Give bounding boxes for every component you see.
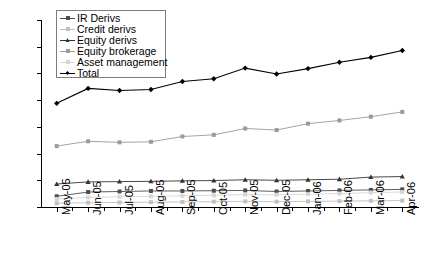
legend-marker-icon	[60, 68, 75, 79]
data-point	[275, 193, 279, 197]
data-point	[212, 200, 216, 204]
data-point	[275, 128, 279, 132]
data-point	[180, 200, 184, 204]
data-point	[117, 88, 122, 93]
series-equity-brokerage	[55, 110, 405, 148]
data-point	[243, 188, 247, 192]
data-point	[306, 199, 310, 203]
data-point	[149, 189, 153, 193]
data-point	[243, 65, 248, 70]
x-axis-minor-tick	[355, 208, 356, 211]
data-point	[400, 110, 404, 114]
legend-item-label: Total	[75, 68, 99, 79]
x-axis-tick-label: Jul-05	[124, 185, 135, 215]
legend-item: Asset management	[60, 57, 162, 68]
x-axis-tick	[277, 208, 278, 212]
chart-legend: IR DerivsCredit derivsEquity derivsEquit…	[56, 10, 166, 78]
legend-marker-icon	[60, 57, 75, 68]
data-point	[86, 190, 90, 194]
x-axis-minor-tick	[72, 208, 73, 211]
data-point	[337, 118, 341, 122]
data-point	[149, 194, 153, 198]
data-point	[211, 76, 216, 81]
data-point	[337, 60, 342, 65]
x-axis-minor-tick	[324, 208, 325, 211]
data-point	[243, 126, 247, 130]
x-axis-minor-tick	[387, 208, 388, 211]
data-point	[212, 133, 216, 137]
line-chart: 35000300002500020000150001000050000 May-…	[0, 0, 431, 269]
x-axis-tick-label: May-05	[61, 178, 72, 215]
data-point	[180, 194, 184, 198]
x-axis-tick	[245, 208, 246, 212]
data-point	[148, 87, 153, 92]
data-point	[275, 200, 279, 204]
x-axis-tick-label: Jun-05	[92, 181, 103, 215]
data-point	[86, 139, 90, 143]
x-axis-tick	[308, 208, 309, 212]
data-point	[369, 191, 373, 195]
data-point	[118, 190, 122, 194]
data-point	[306, 122, 310, 126]
data-point	[180, 189, 184, 193]
data-point	[243, 199, 247, 203]
legend-item: Total	[60, 68, 162, 79]
data-point	[243, 193, 247, 197]
data-point	[305, 66, 310, 71]
x-axis-minor-tick	[230, 208, 231, 211]
x-axis-tick	[402, 208, 403, 212]
x-axis-tick-label: Jan-06	[312, 181, 323, 215]
legend-marker-icon	[60, 46, 75, 57]
data-point	[55, 201, 59, 205]
x-axis-tick-label: Dec-05	[281, 180, 292, 215]
x-axis-tick	[88, 208, 89, 212]
data-point	[274, 71, 279, 76]
x-axis-tick-label: Oct-05	[218, 182, 229, 215]
x-axis-minor-tick	[261, 208, 262, 211]
y-axis-labels: 35000300002500020000150001000050000	[0, 0, 37, 269]
data-point	[180, 134, 184, 138]
data-point	[118, 195, 122, 199]
data-point	[400, 190, 404, 194]
x-axis-tick-label: Aug-05	[155, 180, 166, 215]
x-axis-minor-tick	[104, 208, 105, 211]
x-axis-tick	[371, 208, 372, 212]
data-point	[180, 79, 185, 84]
data-point	[149, 140, 153, 144]
x-axis-tick	[151, 208, 152, 212]
data-point	[400, 199, 404, 203]
legend-marker-icon	[60, 24, 75, 35]
x-axis-minor-tick	[198, 208, 199, 211]
x-axis-minor-tick	[292, 208, 293, 211]
x-axis-tick-label: Sep-05	[186, 180, 197, 215]
data-point	[212, 193, 216, 197]
x-axis-tick-label: Apr-06	[406, 182, 417, 215]
data-point	[149, 200, 153, 204]
series-line	[57, 112, 403, 146]
data-point	[85, 86, 90, 91]
x-axis-minor-tick	[135, 208, 136, 211]
x-axis-tick	[57, 208, 58, 212]
data-point	[369, 199, 373, 203]
data-point	[86, 195, 90, 199]
data-point	[54, 101, 59, 106]
data-point	[400, 48, 405, 53]
legend-marker-icon	[60, 13, 75, 24]
legend-marker-icon	[60, 35, 75, 46]
data-point	[55, 144, 59, 148]
data-point	[369, 115, 373, 119]
data-point	[337, 192, 341, 196]
data-point	[86, 201, 90, 205]
data-point	[55, 197, 59, 201]
data-point	[118, 200, 122, 204]
x-axis-tick	[182, 208, 183, 212]
data-point	[212, 189, 216, 193]
data-point	[337, 199, 341, 203]
x-axis-tick-label: Nov-05	[249, 180, 260, 215]
x-axis-tick-label: Mar-06	[375, 180, 386, 215]
data-point	[118, 140, 122, 144]
x-axis-tick	[339, 208, 340, 212]
x-axis-tick-label: Feb-06	[343, 180, 354, 215]
x-axis-tick	[120, 208, 121, 212]
data-point	[368, 55, 373, 60]
